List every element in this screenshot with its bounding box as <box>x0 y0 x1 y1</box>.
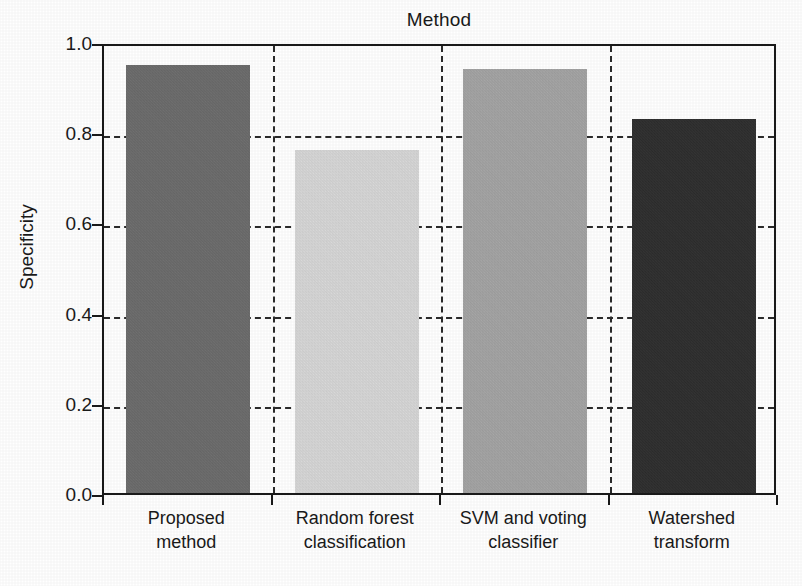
category-separator <box>273 46 275 493</box>
x-tick-mark <box>776 495 778 505</box>
x-tick-label-2: Random forestclassification <box>261 506 450 554</box>
y-axis-title: Specificity <box>16 167 38 327</box>
y-tick-mark <box>92 405 102 407</box>
x-tick-label-line: classification <box>261 530 450 554</box>
bar-2 <box>295 150 419 493</box>
x-tick-label-line: Random forest <box>261 506 450 530</box>
x-tick-label-1: Proposedmethod <box>92 506 281 554</box>
chart-title: Method <box>102 8 776 32</box>
y-tick-label: 0.0 <box>22 485 92 504</box>
y-tick-label: 0.4 <box>22 305 92 324</box>
y-tick-label: 1.0 <box>22 34 92 53</box>
y-tick-mark <box>92 495 102 497</box>
x-tick-label-line: SVM and voting <box>429 506 618 530</box>
x-tick-label-line: method <box>92 530 281 554</box>
category-separator <box>441 46 443 493</box>
x-tick-label-line: Proposed <box>92 506 281 530</box>
y-tick-label: 0.2 <box>22 395 92 414</box>
bar-3 <box>463 69 587 493</box>
plot-area <box>102 44 776 495</box>
x-tick-label-4: Watershedtransform <box>598 506 787 554</box>
y-tick-mark <box>92 224 102 226</box>
y-tick-mark <box>92 134 102 136</box>
bar-chart-figure: Method Specificity 0.00.20.40.60.81.0 Pr… <box>0 0 802 586</box>
bar-4 <box>632 119 756 493</box>
x-tick-label-line: classifier <box>429 530 618 554</box>
y-tick-mark <box>92 315 102 317</box>
category-separator <box>610 46 612 493</box>
y-tick-label: 0.6 <box>22 214 92 233</box>
x-tick-label-line: transform <box>598 530 787 554</box>
x-tick-label-line: Watershed <box>598 506 787 530</box>
bar-1 <box>126 65 250 493</box>
x-tick-mark <box>102 495 104 505</box>
x-tick-mark <box>439 495 441 505</box>
x-tick-mark <box>608 495 610 505</box>
x-tick-mark <box>271 495 273 505</box>
y-tick-mark <box>92 44 102 46</box>
y-tick-label: 0.8 <box>22 124 92 143</box>
x-tick-label-3: SVM and votingclassifier <box>429 506 618 554</box>
